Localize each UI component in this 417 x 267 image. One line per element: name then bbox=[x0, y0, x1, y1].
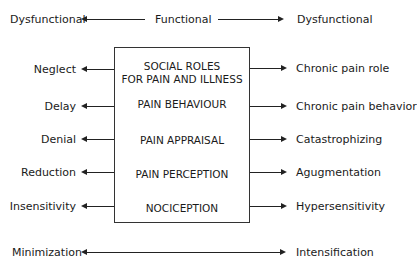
left-outcome: Reduction bbox=[0, 166, 76, 179]
arrow-right-icon bbox=[280, 249, 286, 255]
connector-line bbox=[85, 106, 114, 107]
connector-line bbox=[250, 172, 282, 173]
arrow-right-icon bbox=[281, 169, 287, 175]
level-pain-appraisal: PAIN APPRAISAL bbox=[114, 134, 250, 147]
arrow-right-icon bbox=[281, 203, 287, 209]
bottom-left-label: Minimization bbox=[12, 246, 82, 259]
arrow-right-icon bbox=[278, 16, 284, 22]
bottom-right-label: Intensification bbox=[296, 246, 374, 259]
arrow-right-icon bbox=[281, 65, 287, 71]
right-outcome: Agugmentation bbox=[296, 166, 381, 179]
connector-line bbox=[218, 19, 280, 20]
connector-line bbox=[85, 172, 114, 173]
right-outcome: Chronic pain behavior bbox=[296, 100, 417, 113]
top-left-label: Dysfunctional bbox=[10, 13, 85, 26]
connector-line bbox=[250, 206, 282, 207]
connector-line bbox=[250, 68, 282, 69]
arrow-right-icon bbox=[281, 103, 287, 109]
top-center-label: Functional bbox=[155, 13, 212, 26]
left-outcome: Denial bbox=[0, 133, 76, 146]
right-outcome: Hypersensitivity bbox=[296, 200, 385, 213]
level-social-roles: SOCIAL ROLES FOR PAIN AND ILLNESS bbox=[114, 60, 250, 86]
connector-line bbox=[85, 19, 145, 20]
level-label: FOR PAIN AND ILLNESS bbox=[114, 73, 250, 86]
connector-line bbox=[250, 139, 282, 140]
arrow-right-icon bbox=[281, 136, 287, 142]
right-outcome: Chronic pain role bbox=[296, 62, 389, 75]
left-outcome: Delay bbox=[0, 100, 76, 113]
connector-line bbox=[85, 139, 114, 140]
level-label: SOCIAL ROLES bbox=[114, 60, 250, 73]
right-outcome: Catastrophizing bbox=[296, 133, 382, 146]
connector-line bbox=[85, 69, 114, 70]
left-outcome: Neglect bbox=[0, 63, 76, 76]
level-nociception: NOCICEPTION bbox=[114, 202, 250, 215]
connector-line bbox=[85, 252, 281, 253]
top-right-label: Dysfunctional bbox=[297, 13, 372, 26]
connector-line bbox=[85, 206, 114, 207]
connector-line bbox=[250, 106, 282, 107]
level-pain-perception: PAIN PERCEPTION bbox=[114, 168, 250, 181]
left-outcome: Insensitivity bbox=[0, 200, 76, 213]
level-pain-behaviour: PAIN BEHAVIOUR bbox=[114, 98, 250, 111]
